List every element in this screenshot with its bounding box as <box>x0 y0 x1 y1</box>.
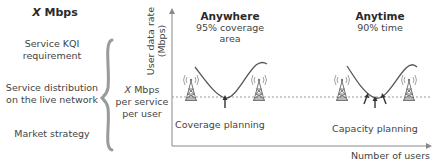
rate-variable: X <box>125 84 132 95</box>
rate-line-2: per service <box>107 96 177 108</box>
y-axis-label: User data rate (Mbps) <box>145 6 167 76</box>
y-axis-label-line2: (Mbps) <box>156 6 167 76</box>
title-unit: Mbps <box>45 6 78 19</box>
factor-line: Service KQI <box>0 38 104 50</box>
capacity-planning-label: Capacity planning <box>325 123 425 134</box>
factor-line: requirement <box>0 50 104 62</box>
factor-service-distribution: Service distribution on the live network <box>0 82 104 106</box>
scenario-anywhere-header: Anywhere 95% coverage area <box>185 10 275 44</box>
coverage-planning-label: Coverage planning <box>170 119 270 130</box>
factor-line: on the live network <box>0 94 104 106</box>
factor-line: Service distribution <box>0 82 104 94</box>
rate-line-3: per user <box>107 108 177 120</box>
per-user-rate-label: X Mbps per service per user <box>107 84 177 120</box>
scenario-heading: Anywhere <box>185 10 275 22</box>
x-axis-label: Number of users <box>351 150 430 161</box>
x-axis <box>172 143 432 149</box>
title-variable: X <box>32 6 40 19</box>
factor-line: Market strategy <box>0 128 104 140</box>
scenario-subheading: 90% time <box>335 22 425 33</box>
rate-line: X Mbps <box>107 84 177 96</box>
left-panel-title: X Mbps <box>0 6 110 19</box>
rate-unit: Mbps <box>134 84 159 95</box>
scenario-subheading: 95% coverage area <box>185 22 275 44</box>
y-axis-label-line1: User data rate <box>145 6 156 76</box>
factor-market-strategy: Market strategy <box>0 128 104 140</box>
scenario-heading: Anytime <box>335 10 425 22</box>
capacity-arrows-icon <box>364 93 386 108</box>
scenario-anytime-header: Anytime 90% time <box>335 10 425 33</box>
factor-service-kqi: Service KQI requirement <box>0 38 104 62</box>
